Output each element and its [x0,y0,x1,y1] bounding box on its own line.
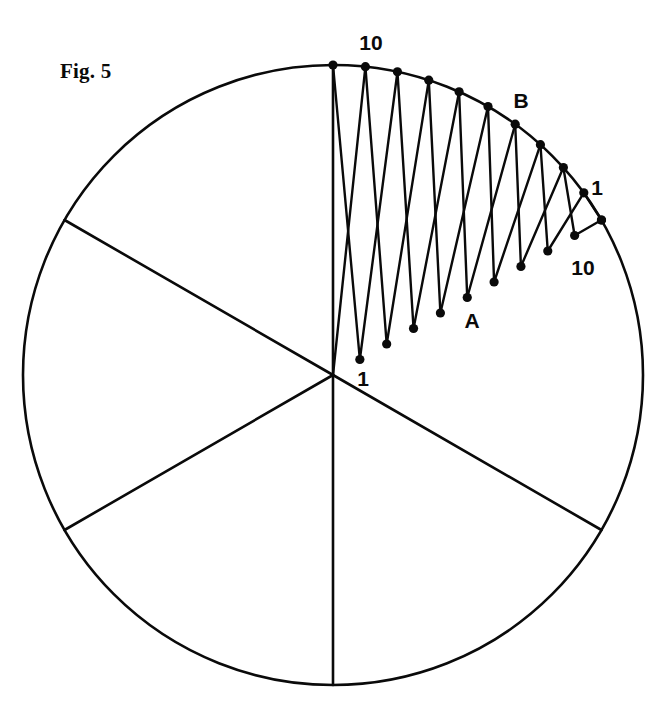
chord-alt-9 [548,193,584,251]
arc-dot-6 [454,87,463,96]
envelope-figure-svg: Fig. 5 10 1 1 10 A B [0,0,659,705]
radius-dot-7 [516,262,525,271]
chord-4-to-7 [515,124,521,266]
arc-dot-4 [511,120,520,129]
radius-dot-4 [436,308,445,317]
radius-dot-6 [489,277,498,286]
arc-dot-8 [393,67,402,76]
arc-dot-2 [559,163,568,172]
chord-8-to-3 [397,72,413,329]
label-radius-start-1: 1 [357,367,369,390]
arc-dot-10 [328,60,337,69]
radius-dot-1 [355,355,364,364]
arc-dot-9 [361,62,370,71]
chord-alt-6 [467,124,515,297]
arc-dot-5 [483,102,492,111]
radius-spoke-4 [333,375,601,530]
radius-division-dots [355,215,606,364]
label-point-b: B [513,89,528,112]
radius-spoke-2 [65,375,333,530]
label-arc-start-10: 10 [359,31,382,54]
arc-dot-1 [579,188,588,197]
label-radius-end-10: 10 [571,256,594,279]
chord-9-to-2 [365,67,386,344]
chord-alt-5 [440,107,488,313]
chord-10-to-1 [333,65,360,360]
label-arc-end-1: 1 [591,176,603,199]
arc-dot-3 [536,140,545,149]
chord-alt-10 [575,220,602,236]
radius-dot-2 [382,339,391,348]
chord-6-to-5 [459,92,467,298]
radius-spoke-1 [65,220,333,375]
arc-dot-7 [424,76,433,85]
chord-3-to-8 [540,145,547,251]
label-point-a: A [464,309,479,332]
radius-dot-8 [543,246,552,255]
figure-caption: Fig. 5 [60,59,111,83]
radius-dot-3 [409,324,418,333]
chord-alt-3 [387,80,429,344]
radius-dot-9 [570,231,579,240]
radius-dot-10 [597,215,606,224]
figure-container: Fig. 5 10 1 1 10 A B [0,0,659,705]
chord-5-to-6 [488,107,494,282]
radius-dot-5 [463,293,472,302]
